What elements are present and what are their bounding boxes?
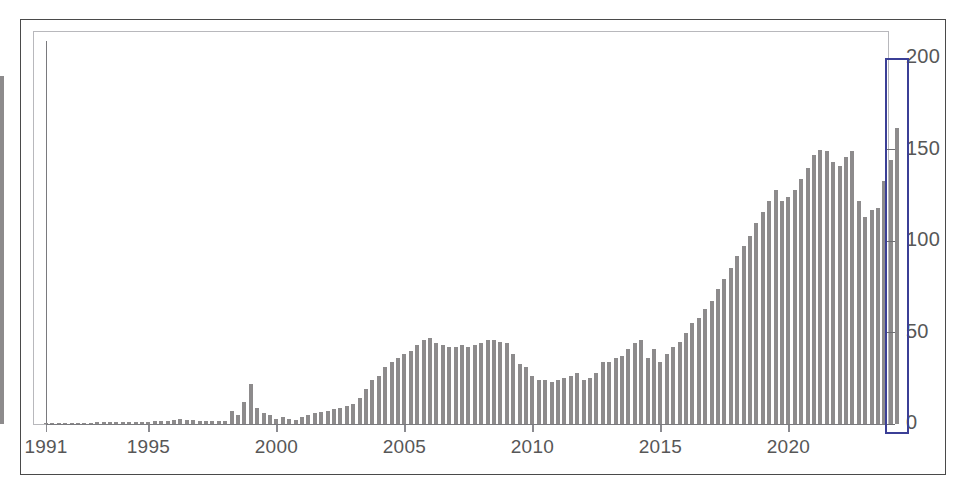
figure-container: 050100150200 199119952000200520102015202… xyxy=(0,0,966,498)
bar xyxy=(0,76,4,424)
plot-area-border xyxy=(33,31,889,425)
